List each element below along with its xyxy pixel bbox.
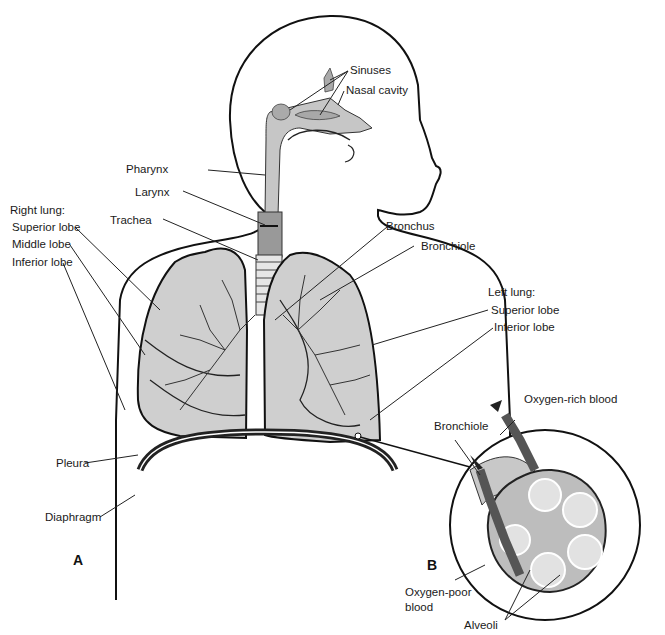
- label-inset-bronchiole: Bronchiole: [434, 420, 488, 433]
- label-right-middle-lobe: Middle lobe: [12, 238, 71, 251]
- label-diaphragm: Diaphragm: [45, 511, 101, 524]
- label-oxygen-poor-blood: Oxygen-poor: [405, 586, 471, 599]
- label-oxygen-poor-blood-2: blood: [405, 601, 433, 614]
- label-pharynx: Pharynx: [126, 163, 168, 176]
- panel-label-b: B: [427, 557, 437, 573]
- label-bronchus: Bronchus: [386, 220, 435, 233]
- label-sinuses: Sinuses: [350, 64, 391, 77]
- respiratory-diagram: [0, 0, 665, 635]
- label-left-inferior-lobe: Inferior lobe: [494, 321, 555, 334]
- panel-label-a: A: [73, 552, 83, 568]
- label-left-lung: Left lung:: [488, 286, 535, 299]
- label-larynx: Larynx: [135, 186, 170, 199]
- label-right-superior-lobe: Superior lobe: [12, 221, 80, 234]
- label-pleura: Pleura: [56, 457, 89, 470]
- label-left-superior-lobe: Superior lobe: [491, 304, 559, 317]
- label-oxygen-rich-blood: Oxygen-rich blood: [524, 393, 617, 406]
- label-right-inferior-lobe: Inferior lobe: [12, 256, 73, 269]
- label-nasal-cavity: Nasal cavity: [346, 84, 408, 97]
- label-trachea: Trachea: [110, 214, 152, 227]
- label-bronchiole: Bronchiole: [421, 240, 475, 253]
- label-alveoli: Alveoli: [464, 619, 498, 632]
- label-right-lung: Right lung:: [10, 204, 65, 217]
